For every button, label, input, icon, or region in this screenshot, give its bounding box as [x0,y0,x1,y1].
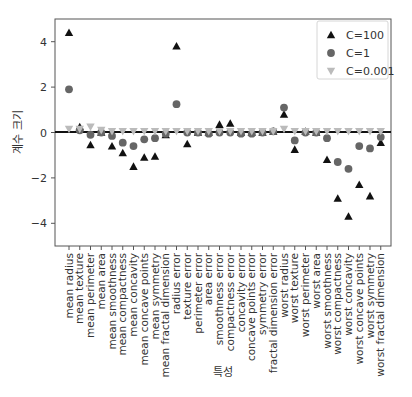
y-tick-label: 4 [40,36,47,49]
data-point [345,165,353,173]
x-tick-label: worst fractal dimension [374,253,386,377]
legend-label: C=0.001 [346,65,394,78]
y-tick-label: −4 [31,217,47,230]
y-axis-ticks: 420−2−4 [31,36,55,231]
x-axis-title: 특성 [213,366,233,379]
y-axis-title: 계수 크기 [12,110,25,154]
data-point [140,135,148,143]
y-tick-label: 0 [40,127,47,140]
data-point [291,137,299,145]
data-point [334,158,342,166]
data-point [173,100,181,108]
data-point [119,139,127,147]
legend-label: C=1 [346,47,370,60]
data-point [87,131,95,139]
data-point [280,104,288,112]
y-tick-label: −2 [31,172,47,185]
coefficient-scatter-chart: 420−2−4 mean radiusmean texturemean peri… [0,0,412,397]
data-point [130,142,138,150]
y-tick-label: 2 [40,81,47,94]
legend: C=100C=1C=0.001 [317,21,394,79]
x-axis-ticks: mean radiusmean texturemean perimetermea… [63,246,387,378]
data-point [65,85,73,93]
legend-marker-circle-icon [327,49,335,57]
data-point [355,142,363,150]
data-point [366,144,374,152]
legend-label: C=100 [346,29,384,42]
